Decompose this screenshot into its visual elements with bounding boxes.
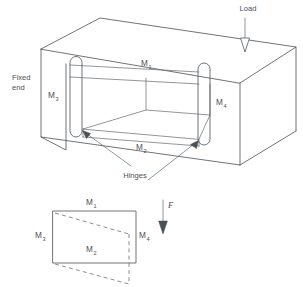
isometric-box-outline — [41, 18, 296, 165]
load-arrow — [241, 18, 250, 52]
m4-subscript: 4 — [224, 103, 227, 109]
m4-letter: M — [216, 98, 223, 107]
force-arrow — [159, 200, 168, 234]
moment-label-m2-lower: M 2 — [86, 245, 97, 256]
m1-letter: M — [141, 59, 148, 68]
m2-subscript-lower: 2 — [94, 250, 97, 256]
hinge-slot-left — [70, 57, 82, 138]
m2-letter: M — [136, 143, 143, 152]
m3-letter: M — [48, 91, 55, 100]
m2-letter-lower: M — [86, 245, 93, 254]
fixed-end-label-line1: Fixed — [12, 73, 31, 82]
diagram-canvas: Load Fixed end M 1 M 2 M 3 M 4 — [0, 0, 303, 287]
m4-subscript-lower: 4 — [147, 236, 150, 242]
m4-letter-lower: M — [139, 231, 146, 240]
hinges-leader-right — [148, 141, 199, 181]
moment-label-m2-upper: M 2 — [136, 143, 147, 154]
moment-label-m3-upper: M 3 — [48, 91, 59, 102]
moment-label-m4-upper: M 4 — [216, 98, 227, 109]
force-label: F — [167, 201, 174, 210]
m1-subscript: 1 — [149, 64, 152, 70]
m2-subscript: 2 — [144, 148, 147, 154]
m3-subscript-lower: 3 — [43, 236, 46, 242]
m3-letter-lower: M — [35, 231, 42, 240]
box-cavity — [70, 65, 210, 146]
hinge-slot-right — [198, 63, 210, 145]
m1-subscript-lower: 1 — [94, 203, 97, 209]
hinges-label: Hinges — [123, 171, 147, 180]
engineering-diagram: Load Fixed end M 1 M 2 M 3 M 4 — [0, 0, 303, 287]
m3-subscript: 3 — [56, 96, 59, 102]
load-label: Load — [240, 4, 257, 13]
fixed-end-label-line2: end — [12, 83, 25, 92]
moment-label-m4-lower: M 4 — [139, 231, 150, 242]
moment-label-m1-upper: M 1 — [141, 59, 152, 70]
moment-label-m1-lower: M 1 — [86, 198, 97, 209]
m1-letter-lower: M — [86, 198, 93, 207]
moment-label-m3-lower: M 3 — [35, 231, 46, 242]
